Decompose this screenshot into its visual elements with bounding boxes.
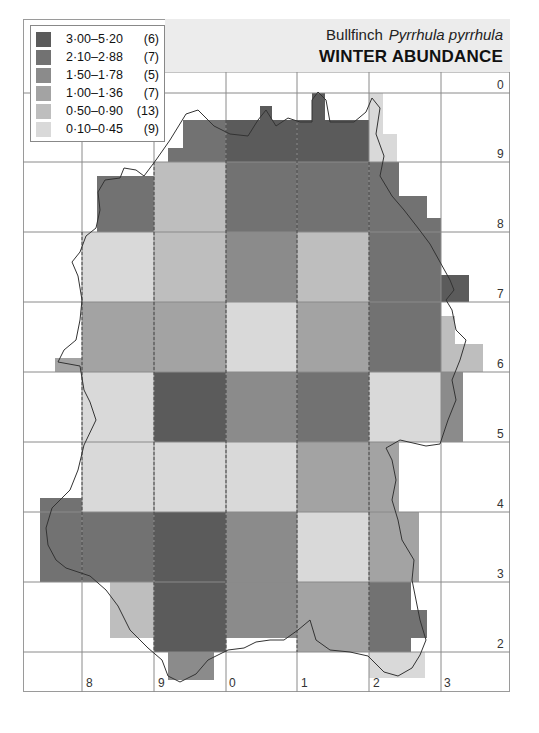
cell-7-8 xyxy=(82,232,154,302)
legend-range: 1·00–1·36 xyxy=(66,86,123,100)
map-subtitle: WINTER ABUNDANCE xyxy=(319,47,503,67)
cell-8-1 xyxy=(297,162,369,232)
legend-count: (6) xyxy=(144,32,159,46)
legend-range: 0·50–0·90 xyxy=(66,104,123,118)
cell-9-0-tab xyxy=(260,106,272,122)
cell-9-2 xyxy=(369,93,383,162)
cell-6-8b xyxy=(55,358,82,372)
legend-item: 0·10–0·45 (9) xyxy=(36,122,161,138)
legend-range: 2·10–2·88 xyxy=(66,50,123,64)
cell-6-1 xyxy=(297,302,369,372)
cell-2-2 xyxy=(369,582,411,652)
cell-9-1 xyxy=(297,120,369,162)
legend-count: (9) xyxy=(144,122,159,136)
y-label: 4 xyxy=(497,497,504,511)
legend-swatch xyxy=(36,50,51,65)
cell-9-9b xyxy=(168,148,183,162)
x-label: 2 xyxy=(373,676,380,690)
cell-2-1 xyxy=(297,582,369,652)
y-label: 8 xyxy=(497,217,504,231)
cell-8-0 xyxy=(226,162,297,232)
legend-range: 0·10–0·45 xyxy=(66,122,123,136)
legend-item: 2·10–2·88 (7) xyxy=(36,50,161,66)
legend-item: 1·00–1·36 (7) xyxy=(36,86,161,102)
cell-4-8 xyxy=(82,442,154,512)
cell-7-0 xyxy=(226,232,297,302)
legend-range: 1·50–1·78 xyxy=(66,68,123,82)
x-label: 3 xyxy=(444,676,451,690)
cell-6-3b xyxy=(455,344,483,372)
cell-7-9 xyxy=(154,232,226,302)
y-label: 3 xyxy=(497,567,504,581)
x-label: 1 xyxy=(301,676,308,690)
cell-2-9 xyxy=(154,582,226,652)
cell-1-9 xyxy=(168,652,214,680)
cell-6-9 xyxy=(154,302,226,372)
cell-5-8 xyxy=(82,372,154,442)
legend-swatch xyxy=(36,32,51,47)
cell-2-8 xyxy=(110,582,154,638)
cell-1-2 xyxy=(369,652,425,678)
legend-item: 1·50–1·78 (5) xyxy=(36,68,161,84)
cell-5-3 xyxy=(441,372,463,442)
cell-5-2 xyxy=(369,372,441,442)
cell-3-2 xyxy=(369,512,419,582)
cell-2-0 xyxy=(226,582,297,638)
cell-7-3 xyxy=(441,275,469,302)
y-label: 7 xyxy=(497,287,504,301)
cell-3-9 xyxy=(154,512,226,582)
cell-4-2 xyxy=(369,442,399,512)
cell-8-2c xyxy=(427,218,441,232)
y-label: 9 xyxy=(497,147,504,161)
legend-count: (7) xyxy=(144,50,159,64)
legend: 3·00–5·20 (6) 2·10–2·88 (7) 1·50–1·78 (5… xyxy=(30,25,165,142)
cell-3-1 xyxy=(297,512,369,582)
cell-9-1-tab xyxy=(312,93,325,121)
legend-swatch xyxy=(36,86,51,101)
cell-5-1 xyxy=(297,372,369,442)
y-label: 6 xyxy=(497,357,504,371)
cell-3-8 xyxy=(82,512,154,582)
cell-3-0 xyxy=(226,512,297,582)
common-name: Bullfinch xyxy=(326,26,383,43)
cell-5-0 xyxy=(226,372,297,442)
cell-6-8 xyxy=(82,302,154,372)
legend-swatch xyxy=(36,104,51,119)
cell-6-0 xyxy=(226,302,297,372)
cell-7-2 xyxy=(369,232,441,302)
scientific-name: Pyrrhula pyrrhula xyxy=(389,26,503,43)
cell-2-2b xyxy=(411,610,427,638)
cell-6-3 xyxy=(441,316,455,372)
legend-item: 0·50–0·90 (13) xyxy=(36,104,161,120)
legend-count: (5) xyxy=(144,68,159,82)
cell-4-1 xyxy=(297,442,369,512)
cell-5-9 xyxy=(154,372,226,442)
cell-4-9 xyxy=(154,442,226,512)
cell-8-9 xyxy=(154,162,226,232)
cell-9-0 xyxy=(226,120,297,162)
legend-swatch xyxy=(36,122,51,137)
cell-7-1 xyxy=(297,232,369,302)
cell-4-0 xyxy=(226,442,297,512)
cell-3-7 xyxy=(40,498,82,582)
cell-8-2 xyxy=(369,162,399,232)
y-label: 2 xyxy=(497,637,504,651)
legend-range: 3·00–5·20 xyxy=(66,32,123,46)
y-label: 5 xyxy=(497,427,504,441)
species-title: BullfinchPyrrhula pyrrhula xyxy=(326,26,503,43)
legend-count: (13) xyxy=(137,104,159,118)
cell-8-8 xyxy=(97,176,154,232)
cell-9-9 xyxy=(183,120,226,162)
x-label: 0 xyxy=(229,676,236,690)
legend-swatch xyxy=(36,68,51,83)
legend-count: (7) xyxy=(144,86,159,100)
cell-8-2b xyxy=(399,196,427,232)
cell-9-2b xyxy=(383,134,397,162)
cell-6-2 xyxy=(369,302,441,372)
legend-item: 3·00–5·20 (6) xyxy=(36,32,161,48)
y-label: 0 xyxy=(497,78,504,92)
x-label: 8 xyxy=(86,676,93,690)
x-label: 9 xyxy=(158,676,165,690)
